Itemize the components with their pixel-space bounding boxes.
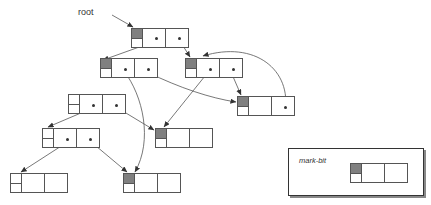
mark-bit-label: mark-bit [299, 156, 326, 165]
label-layer: root mark-bit [0, 0, 431, 205]
heap-graph-figure: root mark-bit [0, 0, 431, 205]
root-label: root [78, 7, 94, 17]
